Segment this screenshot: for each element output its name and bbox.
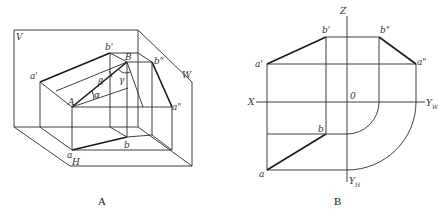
angle-gamma-arc bbox=[119, 70, 130, 73]
label-w-plane: W bbox=[182, 70, 192, 80]
projection-figure: V W H a' b' B b" a" A a b α β γ A bbox=[0, 0, 442, 218]
figure-a-pictorial: V W H a' b' B b" a" A a b α β γ A bbox=[14, 30, 192, 207]
label-b-double-prime: b" bbox=[154, 56, 164, 66]
outer-transfer-arc bbox=[347, 102, 416, 170]
label-beta: β bbox=[97, 77, 103, 87]
line-a-b bbox=[267, 134, 326, 170]
w-plane bbox=[138, 30, 192, 166]
label-b: b bbox=[318, 124, 324, 134]
line-b-dprime-a-dprime bbox=[379, 37, 416, 64]
caption-b: B bbox=[334, 195, 341, 207]
label-b: b bbox=[124, 140, 130, 150]
label-a: a bbox=[67, 150, 72, 160]
line-a-prime-b-prime bbox=[267, 37, 326, 64]
label-a-double-prime: a" bbox=[172, 102, 182, 112]
label-b-double-prime: b" bbox=[380, 25, 390, 35]
label-a-prime: a' bbox=[30, 71, 38, 81]
label-z-axis: Z bbox=[339, 6, 347, 16]
label-y-h: Y H bbox=[349, 176, 361, 188]
caption-a: A bbox=[98, 195, 106, 207]
oy-axis-line bbox=[138, 127, 192, 166]
svg-text:H: H bbox=[354, 181, 361, 188]
label-y-w: Y W bbox=[426, 98, 439, 110]
line-a-b bbox=[72, 137, 127, 150]
line-b-dprime-a-dprime bbox=[152, 62, 172, 107]
inner-transfer-arc bbox=[347, 102, 379, 134]
label-a: a bbox=[259, 169, 264, 179]
label-b-prime: b' bbox=[105, 42, 113, 52]
label-gamma: γ bbox=[119, 75, 125, 85]
label-B: B bbox=[124, 52, 132, 62]
label-v-plane: V bbox=[16, 32, 24, 42]
label-A: A bbox=[67, 97, 75, 107]
label-a-prime: a' bbox=[255, 59, 263, 69]
label-b-prime: b' bbox=[322, 25, 330, 35]
label-origin: 0 bbox=[350, 91, 356, 101]
label-x-axis: X bbox=[247, 97, 255, 107]
figure-b-orthographic: Z X 0 Y W Y H a' b' b" a" b a B bbox=[247, 6, 439, 207]
label-a-double-prime: a" bbox=[417, 57, 427, 67]
label-alpha: α bbox=[94, 90, 100, 100]
svg-text:W: W bbox=[432, 103, 439, 110]
